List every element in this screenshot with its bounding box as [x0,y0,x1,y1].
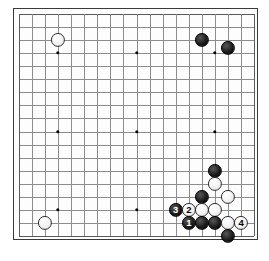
grid-line-horizontal [19,236,254,237]
star-point [213,130,216,133]
grid-line-vertical [163,14,164,236]
grid-line-vertical [71,14,72,236]
stone-black[interactable] [195,33,209,47]
grid-line-vertical [45,14,46,236]
stone-move-1[interactable]: 1 [182,216,196,230]
stone-black[interactable] [195,216,209,230]
stone-move-4[interactable]: 4 [234,216,248,230]
stone-black[interactable] [208,164,222,178]
grid-line-vertical [254,14,255,236]
star-point [135,51,138,54]
star-point [56,130,59,133]
stone-white[interactable] [38,216,52,230]
stone-move-3[interactable]: 3 [169,203,183,217]
star-point [213,51,216,54]
stone-black[interactable] [221,229,235,243]
grid-line-vertical [58,14,59,236]
stone-black[interactable] [208,216,222,230]
grid-line-vertical [97,14,98,236]
stone-move-number: 4 [238,218,243,228]
stone-white[interactable] [208,177,222,191]
stone-move-number: 1 [186,218,191,228]
stone-white[interactable] [208,203,222,217]
grid-line-vertical [110,14,111,236]
grid-line-vertical [241,14,242,236]
stone-white[interactable] [51,33,65,47]
star-point [56,51,59,54]
grid-line-vertical [32,14,33,236]
stone-black[interactable] [195,190,209,204]
grid-line-vertical [123,14,124,236]
star-point [135,130,138,133]
stone-white[interactable] [221,190,235,204]
go-board[interactable]: 3214 [13,8,259,241]
go-diagram-root: 3214 [0,0,269,261]
star-point [135,208,138,211]
grid-line-vertical [137,14,138,236]
star-point [56,208,59,211]
grid-line-vertical [84,14,85,236]
grid-line-vertical [19,14,20,236]
stone-move-number: 3 [173,205,178,215]
stone-move-number: 2 [186,205,191,215]
stone-white[interactable] [221,216,235,230]
stone-white[interactable] [195,203,209,217]
stone-move-2[interactable]: 2 [182,203,196,217]
grid-line-vertical [150,14,151,236]
